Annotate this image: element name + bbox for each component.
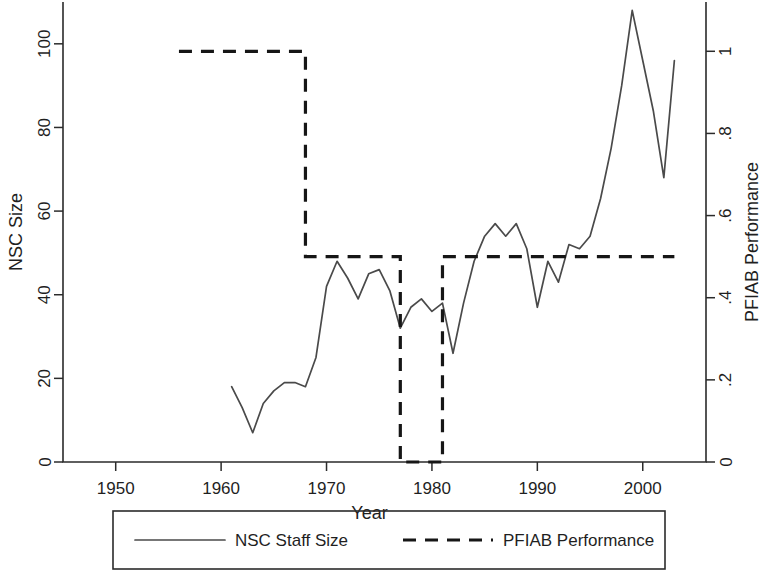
x-axis-tick-label: 1960 (202, 479, 240, 498)
y2-axis-tick-label: 1 (717, 47, 736, 56)
y-axis-tick-label: 20 (36, 369, 55, 388)
x-axis-tick-label: 2000 (624, 479, 662, 498)
x-axis-tick-label: 1990 (518, 479, 556, 498)
y2-axis-tick-label: .4 (717, 291, 736, 305)
y-axis-tick-label: 80 (36, 118, 55, 137)
x-axis-title: Year (351, 503, 387, 523)
y2-axis-tick-label: .6 (717, 208, 736, 222)
y-axis-title: NSC Size (6, 193, 26, 271)
x-axis-tick-label: 1970 (308, 479, 346, 498)
x-axis-tick-label: 1950 (97, 479, 135, 498)
plot-frame (63, 2, 706, 462)
y-axis-tick-label: 60 (36, 202, 55, 221)
x-axis-tick-label: 1980 (413, 479, 451, 498)
y2-axis-tick-label: 0 (717, 457, 736, 466)
legend-label-1: NSC Staff Size (235, 531, 348, 550)
chart-canvas: 195019601970198019902000Year020406080100… (0, 0, 779, 578)
legend-label-2: PFIAB Performance (503, 531, 654, 550)
series-line-2 (179, 51, 674, 462)
y-axis-tick-label: 0 (36, 457, 55, 466)
y2-axis-title: PFIAB Performance (742, 162, 762, 322)
series-line-1 (232, 10, 675, 432)
y2-axis-tick-label: .2 (717, 373, 736, 387)
y2-axis-tick-label: .8 (717, 126, 736, 140)
y-axis-tick-label: 100 (36, 30, 55, 58)
nsc-pfiab-line-chart: 195019601970198019902000Year020406080100… (0, 0, 779, 578)
y-axis-tick-label: 40 (36, 285, 55, 304)
